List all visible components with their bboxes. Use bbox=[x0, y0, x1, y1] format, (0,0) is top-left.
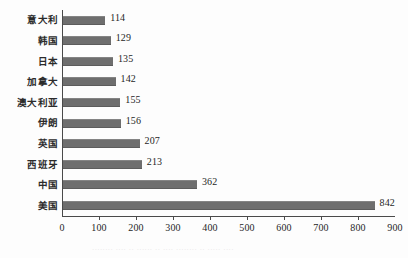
category-label: 澳大利亚 bbox=[2, 98, 58, 108]
x-axis-tick bbox=[321, 216, 322, 220]
bar-row: 129 bbox=[62, 31, 395, 52]
x-axis-tick bbox=[210, 216, 211, 220]
bar bbox=[63, 77, 116, 86]
bar-value-label: 207 bbox=[145, 135, 160, 146]
x-axis-tick bbox=[358, 216, 359, 220]
bar-row: 156 bbox=[62, 113, 395, 134]
bar-value-label: 842 bbox=[380, 197, 395, 208]
bar-row: 207 bbox=[62, 134, 395, 155]
bar-row: 155 bbox=[62, 92, 395, 113]
bar-value-label: 213 bbox=[147, 156, 162, 167]
category-label: 伊朗 bbox=[2, 118, 58, 128]
bar bbox=[63, 180, 197, 189]
bar bbox=[63, 201, 375, 210]
bar-row: 142 bbox=[62, 72, 395, 93]
bar bbox=[63, 16, 105, 25]
category-label: 意大利 bbox=[2, 15, 58, 25]
x-axis-tick bbox=[247, 216, 248, 220]
bar bbox=[63, 119, 121, 128]
bar-value-label: 156 bbox=[126, 115, 141, 126]
category-label: 日本 bbox=[2, 57, 58, 67]
bar-row: 362 bbox=[62, 175, 395, 196]
bar-value-label: 362 bbox=[202, 176, 217, 187]
bar bbox=[63, 160, 142, 169]
bar bbox=[63, 57, 113, 66]
x-axis-tick bbox=[284, 216, 285, 220]
x-axis-tick-label: 600 bbox=[276, 222, 291, 233]
bar bbox=[63, 139, 140, 148]
x-axis-tick-label: 200 bbox=[128, 222, 143, 233]
bar-row: 842 bbox=[62, 195, 395, 216]
category-label: 韩国 bbox=[2, 36, 58, 46]
bar bbox=[63, 98, 120, 107]
x-axis-tick-label: 0 bbox=[59, 222, 64, 233]
category-label: 加拿大 bbox=[2, 77, 58, 87]
bar-row: 135 bbox=[62, 51, 395, 72]
x-axis-tick bbox=[173, 216, 174, 220]
category-axis-labels: 意大利韩国日本加拿大澳大利亚伊朗英国西班牙中国美国 bbox=[0, 0, 58, 258]
x-axis-tick-label: 400 bbox=[202, 222, 217, 233]
bar-chart-figure: 意大利韩国日本加拿大澳大利亚伊朗英国西班牙中国美国 11412913514215… bbox=[0, 0, 408, 258]
x-axis-tick-label: 300 bbox=[165, 222, 180, 233]
bar-row: 213 bbox=[62, 154, 395, 175]
category-label: 英国 bbox=[2, 139, 58, 149]
x-axis-tick-label: 500 bbox=[239, 222, 254, 233]
bar-value-label: 114 bbox=[110, 12, 125, 23]
x-axis-tick-label: 100 bbox=[91, 222, 106, 233]
x-axis-tick-label: 900 bbox=[387, 222, 402, 233]
x-axis-tick bbox=[99, 216, 100, 220]
x-axis-tick-label: 800 bbox=[350, 222, 365, 233]
x-axis-line bbox=[62, 216, 395, 217]
bar bbox=[63, 36, 111, 45]
x-axis-tick bbox=[136, 216, 137, 220]
bar-value-label: 155 bbox=[125, 94, 140, 105]
bar-value-label: 135 bbox=[118, 53, 133, 64]
bottom-caption: ········ ···· ·· ······ ·· ···· ········… bbox=[92, 246, 392, 254]
plot-area: 114129135142155156207213362842 010020030… bbox=[62, 10, 395, 216]
bar-row: 114 bbox=[62, 10, 395, 31]
x-axis-tick-label: 700 bbox=[313, 222, 328, 233]
category-label: 西班牙 bbox=[2, 160, 58, 170]
category-label: 中国 bbox=[2, 180, 58, 190]
bar-value-label: 129 bbox=[116, 32, 131, 43]
bar-value-label: 142 bbox=[121, 73, 136, 84]
category-label: 美国 bbox=[2, 201, 58, 211]
